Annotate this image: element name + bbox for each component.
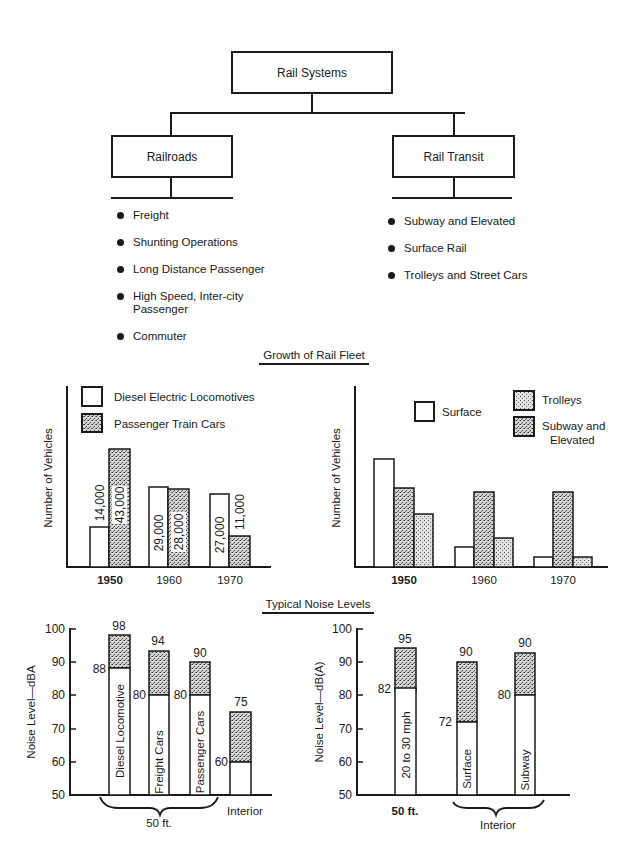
connector [111, 197, 233, 199]
list-item: Subway and Elevated [386, 215, 606, 228]
bar-label: Subway [519, 749, 531, 790]
bar-diesel-1960 [149, 487, 168, 567]
section-title-fleet: Growth of Rail Fleet [259, 349, 369, 365]
y-tick: 100 [45, 622, 65, 636]
x-tick: 1970 [550, 574, 576, 586]
group-brace-50ft [100, 797, 218, 815]
value-label: 29,000 [152, 514, 166, 551]
group-label: Interior [480, 819, 516, 831]
value-label: 14,000 [93, 484, 107, 521]
y-tick: 80 [339, 688, 353, 702]
bar-interior-low [230, 762, 251, 795]
value-low: 80 [174, 688, 188, 702]
connector [311, 94, 313, 114]
legend-swatch-passenger [82, 414, 102, 432]
legend-label-passenger: Passenger Train Cars [114, 418, 225, 430]
value-high: 95 [398, 632, 412, 646]
value-low: 80 [133, 688, 147, 702]
bar-label: Diesel Locomotive [114, 684, 126, 778]
bar-label: Freight Cars [153, 730, 165, 794]
section-title-noise: Typical Noise Levels [262, 598, 374, 614]
node-rail-systems: Rail Systems [231, 51, 393, 94]
bar-subway-1960 [474, 492, 494, 567]
bar-diesel-1970 [210, 494, 229, 567]
bar-surface-1950 [374, 459, 394, 567]
bar-label: Surface [461, 749, 473, 789]
y-tick: 50 [52, 788, 66, 802]
chart-transit-noise: 100 90 80 70 60 50 Noise Level—dB(A) 95 … [313, 622, 570, 831]
group-label: 50 ft. [392, 805, 419, 817]
value-label: 11,000 [233, 494, 247, 530]
bar-label: Passenger Cars [194, 711, 206, 794]
bar-passenger-1950 [109, 449, 130, 567]
y-tick: 60 [52, 755, 66, 769]
value-high: 90 [518, 636, 532, 650]
node-rail-systems-label: Rail Systems [277, 66, 347, 80]
bar-trolleys-1950 [414, 514, 433, 567]
y-tick: 90 [339, 655, 353, 669]
legend-swatch-diesel [82, 387, 102, 406]
bar-subway-high [515, 653, 535, 695]
value-low: 72 [439, 715, 453, 729]
bar-freight-high [149, 651, 169, 695]
bar-2030-low [395, 688, 416, 795]
bar-diesel-high [109, 635, 130, 668]
bar-diesel-low [109, 668, 130, 795]
connector [453, 178, 455, 198]
bar-surface-high [457, 662, 477, 722]
bar-trolleys-1970 [573, 557, 592, 567]
legend-label-subway-2: Elevated [550, 434, 595, 446]
bar-subway-1950 [394, 488, 414, 567]
value-label: 27,000 [213, 516, 227, 553]
chart-railroad-noise: 100 90 80 70 60 50 Noise Level—dBA 98 88… [25, 619, 272, 829]
group-brace-interior [453, 800, 544, 815]
list-item: Freight [115, 209, 315, 222]
bar-2030-high [395, 648, 416, 691]
bar-passenger-low [190, 695, 210, 795]
railroads-list: Freight Shunting Operations Long Distanc… [115, 209, 315, 343]
x-tick: 1960 [471, 574, 497, 586]
value-high: 90 [193, 646, 207, 660]
y-tick: 80 [52, 688, 66, 702]
node-railroads: Railroads [111, 135, 233, 178]
value-high: 75 [234, 695, 248, 709]
y-axis-label: Noise Level—dBA [25, 665, 37, 759]
legend-label-subway-1: Subway and [542, 420, 605, 432]
value-low: 80 [498, 688, 512, 702]
legend-swatch-trolleys [514, 391, 534, 410]
node-rail-transit: Rail Transit [392, 135, 515, 178]
bar-freight-low [149, 695, 169, 795]
bar-subway-low [515, 695, 535, 795]
y-tick: 70 [339, 722, 353, 736]
rail-transit-list: Subway and Elevated Surface Rail Trolley… [386, 215, 606, 282]
y-axis-label: Number of Vehicles [42, 428, 54, 528]
list-item: Long Distance Passenger [115, 263, 315, 276]
x-tick: 1950 [391, 574, 417, 586]
bar-label: 20 to 30 mph [400, 711, 412, 778]
legend-label-surface: Surface [442, 406, 482, 418]
y-tick: 100 [332, 622, 352, 636]
bar-passenger-1960 [168, 489, 189, 567]
label-backing [171, 512, 186, 552]
bar-surface-1960 [455, 547, 474, 567]
bar-passenger-1970 [229, 536, 250, 567]
x-tick: 1960 [156, 574, 182, 586]
connector [170, 178, 172, 198]
y-tick: 90 [52, 655, 66, 669]
connector [392, 197, 512, 199]
list-item: Trolleys and Street Cars [386, 269, 606, 282]
value-high: 90 [459, 645, 473, 659]
group-label: 50 ft. [146, 817, 172, 829]
chart-transit-fleet: Number of Vehicles Surface Trolleys Subw… [330, 386, 608, 586]
value-label: 43,000 [113, 486, 127, 523]
node-railroads-label: Railroads [147, 150, 198, 164]
bar-diesel-1950 [90, 527, 109, 567]
y-axis-label: Number of Vehicles [330, 428, 342, 528]
group-label: Interior [227, 805, 263, 817]
legend-label-trolleys: Trolleys [542, 394, 582, 406]
bar-surface-low [457, 722, 477, 795]
value-low: 88 [93, 662, 107, 676]
bar-surface-1970 [534, 557, 553, 567]
list-item: High Speed, Inter-city Passenger [115, 290, 248, 316]
bar-passenger-high [190, 662, 210, 695]
